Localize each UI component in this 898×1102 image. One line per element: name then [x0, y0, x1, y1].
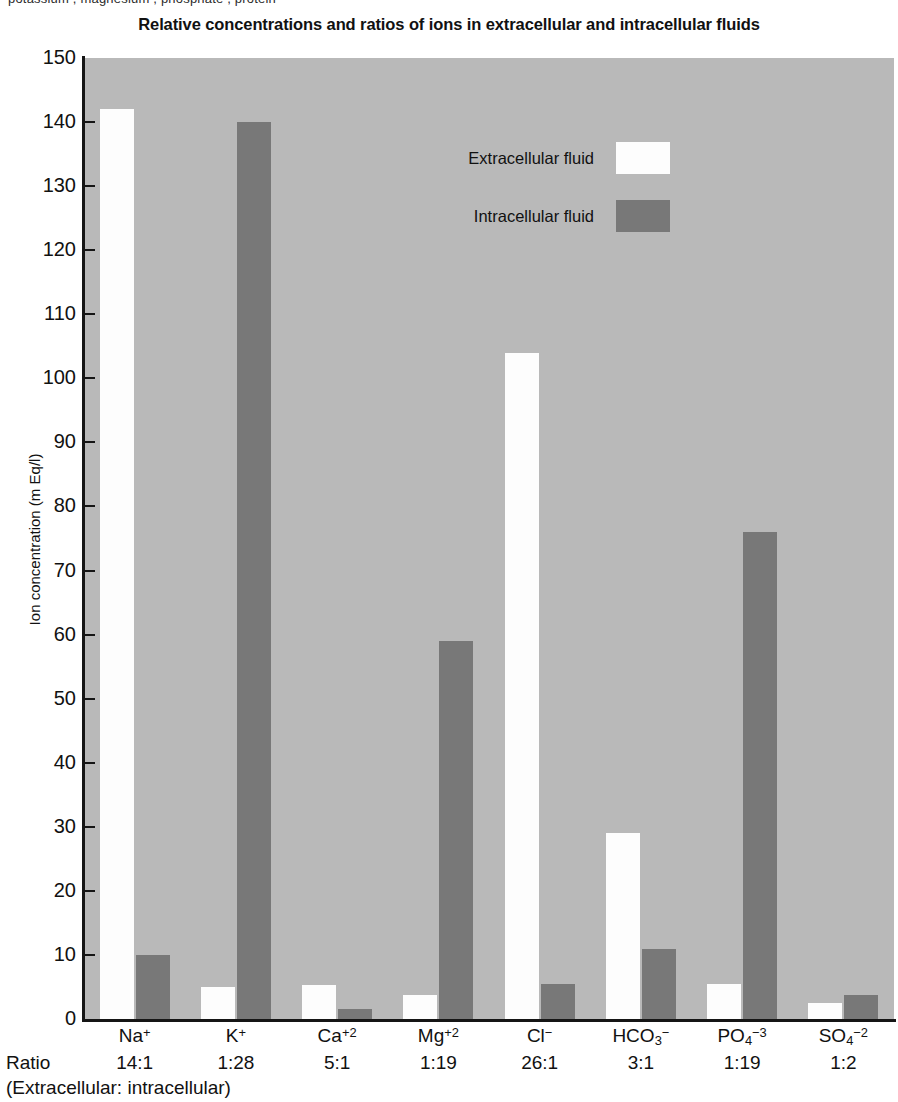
bar-mg-extracellular	[403, 995, 437, 1019]
ratio-value-cl: 26:1	[489, 1052, 590, 1074]
y-axis-tick-mark	[84, 377, 95, 379]
y-axis-tick-mark	[84, 121, 95, 123]
y-axis-tick-label: 70	[8, 560, 76, 580]
y-axis-tick-mark	[84, 185, 95, 187]
bar-so4-intracellular	[844, 995, 878, 1019]
bar-na-intracellular	[136, 955, 170, 1019]
legend-label-extracellular: Extracellular fluid	[468, 149, 594, 168]
bar-po4-extracellular	[707, 984, 741, 1019]
y-axis-tick-label: 80	[8, 495, 76, 515]
legend-swatch-intracellular	[616, 200, 670, 232]
y-axis-tick-label: 10	[8, 944, 76, 964]
y-axis-tick-label: 0	[8, 1008, 76, 1028]
y-axis-tick-labels: 0102030405060708090100110120130140150	[0, 0, 76, 1102]
y-axis-tick-label: 130	[8, 175, 76, 195]
bar-po4-intracellular	[743, 532, 777, 1019]
bar-na-extracellular	[100, 109, 134, 1019]
legend-item-intracellular: Intracellular fluid	[400, 196, 670, 236]
y-axis-tick-mark	[84, 698, 95, 700]
legend-swatch-extracellular	[616, 142, 670, 174]
y-axis-tick-mark	[84, 505, 95, 507]
y-axis-tick-label: 120	[8, 239, 76, 259]
legend-label-intracellular: Intracellular fluid	[474, 207, 594, 226]
y-axis-tick-label: 140	[8, 111, 76, 131]
ratio-subcaption: (Extracellular: intracellular)	[6, 1077, 231, 1099]
y-axis-tick-mark	[84, 441, 95, 443]
y-axis-tick-label: 90	[8, 431, 76, 451]
legend-item-extracellular: Extracellular fluid	[400, 138, 670, 178]
x-axis-label-po4: PO4−3	[692, 1025, 793, 1048]
y-axis-tick-label: 150	[8, 47, 76, 67]
y-axis-tick-mark	[84, 313, 95, 315]
y-axis-tick-label: 20	[8, 880, 76, 900]
y-axis-tick-label: 110	[8, 303, 76, 323]
y-axis-tick-label: 50	[8, 688, 76, 708]
ratio-value-hco3: 3:1	[590, 1052, 691, 1074]
y-axis-tick-mark	[84, 826, 95, 828]
y-axis-tick-mark	[84, 570, 95, 572]
y-axis-tick-mark	[84, 890, 95, 892]
bar-hco3-extracellular	[606, 833, 640, 1019]
chart-legend: Extracellular fluid Intracellular fluid	[400, 138, 670, 254]
y-axis-tick-mark	[84, 954, 95, 956]
y-axis-tick-mark	[84, 249, 95, 251]
x-axis-label-ca: Ca+2	[287, 1025, 388, 1047]
ratio-value-ca: 5:1	[287, 1052, 388, 1074]
ratio-row: Ratio 14:11:285:11:1926:13:11:191:2	[0, 1052, 898, 1078]
bar-k-intracellular	[237, 122, 271, 1019]
x-axis-label-k: K+	[185, 1025, 286, 1047]
x-axis-labels: Na+K+Ca+2Mg+2Cl−HCO3−PO4−3SO4−2	[84, 1025, 894, 1055]
x-axis-line	[82, 1019, 896, 1022]
bar-ca-extracellular	[302, 985, 336, 1019]
chart-title: Relative concentrations and ratios of io…	[0, 15, 898, 34]
y-axis-tick-mark	[84, 634, 95, 636]
x-axis-label-so4: SO4−2	[793, 1025, 894, 1048]
cropped-caption-sliver: potassium , magnesium , phosphate , prot…	[0, 0, 898, 9]
bar-mg-intracellular	[439, 641, 473, 1019]
y-axis-tick-label: 60	[8, 624, 76, 644]
x-axis-label-hco3: HCO3−	[590, 1025, 691, 1048]
ratio-value-mg: 1:19	[388, 1052, 489, 1074]
bar-cl-intracellular	[541, 984, 575, 1019]
bar-k-extracellular	[201, 987, 235, 1019]
ratio-caption: Ratio	[6, 1052, 50, 1074]
y-axis-tick-mark	[84, 762, 95, 764]
ratio-value-k: 1:28	[185, 1052, 286, 1074]
ratio-value-po4: 1:19	[692, 1052, 793, 1074]
x-axis-label-cl: Cl−	[489, 1025, 590, 1047]
bar-hco3-intracellular	[642, 949, 676, 1019]
ratio-value-so4: 1:2	[793, 1052, 894, 1074]
x-axis-label-na: Na+	[84, 1025, 185, 1047]
x-axis-label-mg: Mg+2	[388, 1025, 489, 1047]
y-axis-tick-label: 30	[8, 816, 76, 836]
y-axis-line	[82, 56, 85, 1021]
bar-ca-intracellular	[338, 1009, 372, 1019]
y-axis-tick-label: 100	[8, 367, 76, 387]
bar-so4-extracellular	[808, 1003, 842, 1019]
bar-cl-extracellular	[505, 353, 539, 1019]
ratio-value-na: 14:1	[84, 1052, 185, 1074]
y-axis-tick-label: 40	[8, 752, 76, 772]
